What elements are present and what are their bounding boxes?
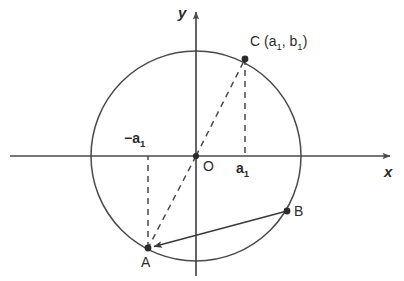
point-marker-b <box>284 208 291 215</box>
tick-label-a1-positive: a1 <box>236 161 249 178</box>
point-label-b: B <box>294 204 303 218</box>
tick-label-a1-negative: −a1 <box>124 131 145 148</box>
coord-close-paren: ) <box>303 33 308 49</box>
dashed-o-to-a <box>148 156 196 248</box>
dashed-o-to-c <box>196 59 245 156</box>
x-axis-label: x <box>384 164 392 179</box>
vector-b-to-a <box>154 211 287 247</box>
point-marker-a <box>145 245 152 252</box>
point-label-a: A <box>141 255 150 269</box>
origin-label: O <box>203 159 214 173</box>
tick-a1-negative-subscript: 1 <box>140 138 145 149</box>
tick-a1-positive-subscript: 1 <box>244 168 249 179</box>
geometry-diagram: y x O A B C (a1, b1) a1 −a1 <box>0 0 404 281</box>
tick-a1-negative-text: −a <box>124 130 140 146</box>
diagram-canvas <box>0 0 404 281</box>
y-axis-label: y <box>178 5 186 20</box>
point-marker-c <box>242 56 249 63</box>
point-label-c: C <box>250 33 260 49</box>
point-label-c-with-coordinates: C (a1, b1) <box>250 34 307 51</box>
tick-a1-positive-text: a <box>236 160 244 176</box>
coord-comma: , <box>282 33 290 49</box>
point-marker-origin <box>193 153 199 159</box>
